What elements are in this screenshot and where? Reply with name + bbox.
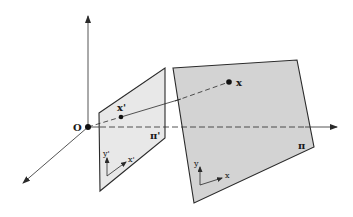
object-plane-x-label: x — [225, 171, 230, 180]
image-point-label: x' — [117, 102, 126, 113]
origin-label: O — [73, 122, 82, 133]
depth-axis — [23, 127, 88, 183]
image-point — [119, 115, 124, 120]
object-plane-y-label: y — [193, 159, 199, 168]
image-plane-label: π' — [150, 130, 160, 141]
object-plane — [173, 60, 314, 203]
image-plane-x-label: x' — [128, 155, 135, 164]
origin-point — [85, 124, 91, 130]
world-point — [226, 79, 232, 85]
world-point-label: x — [236, 77, 243, 88]
object-plane-label: π — [298, 140, 305, 151]
image-plane-y-label: y' — [102, 149, 110, 158]
projection-diagram: O x' x π' π y' x' y x — [0, 0, 353, 217]
